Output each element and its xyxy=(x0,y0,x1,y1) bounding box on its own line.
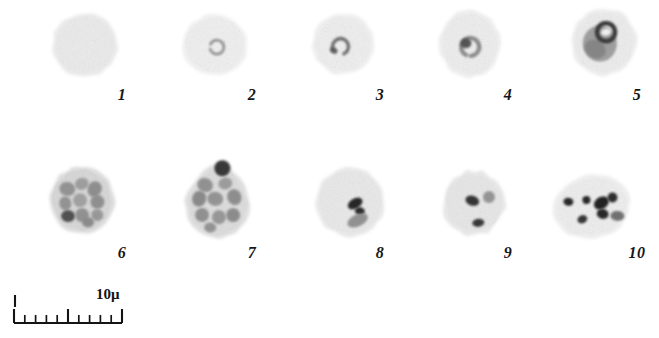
specimen-6 xyxy=(46,162,120,238)
specimen-1 xyxy=(49,11,121,80)
specimen-label-3: 3 xyxy=(376,86,385,104)
specimen-8 xyxy=(312,164,386,240)
specimen-label-7: 7 xyxy=(248,244,257,262)
specimen-label-9: 9 xyxy=(504,244,513,262)
specimen-9 xyxy=(440,166,511,241)
scale-bar-caption: 10μ xyxy=(96,286,120,303)
specimen-label-8: 8 xyxy=(376,244,385,262)
specimen-label-2: 2 xyxy=(248,86,257,104)
specimen-5 xyxy=(568,6,640,79)
scale-bar xyxy=(10,288,150,330)
specimen-4 xyxy=(436,8,503,80)
specimen-2 xyxy=(181,12,250,77)
specimen-label-10: 10 xyxy=(629,244,646,262)
specimen-10 xyxy=(546,167,637,246)
specimen-label-5: 5 xyxy=(633,86,642,104)
specimen-label-6: 6 xyxy=(118,244,127,262)
specimen-label-4: 4 xyxy=(504,86,513,104)
specimen-3 xyxy=(308,8,380,80)
specimen-label-1: 1 xyxy=(118,86,127,104)
microscopy-plate: 12345678910 10μ xyxy=(0,0,659,338)
specimen-7 xyxy=(182,158,253,241)
